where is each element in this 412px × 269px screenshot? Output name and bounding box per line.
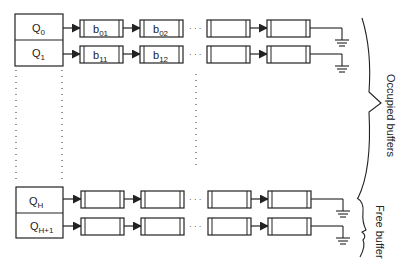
queue-table-bottom: QH QH+1 [16,187,63,238]
occupied-buffers-label: Occupied buffers [385,74,397,157]
ground-icon [311,199,350,217]
queue-buffer-diagram: Q0 Q1 QH QH+1 · · · b01 b02 · · · [0,0,412,269]
vertical-ellipsis [16,70,196,182]
free-brace [357,198,366,257]
free-buffer-label: Free buffer [374,205,386,259]
occupied-brace [358,18,381,198]
ellipsis: · · · [189,50,201,59]
ground-icon [310,28,349,46]
ellipsis: · · · [189,195,201,204]
ground-icon [310,54,349,72]
queue-table-top: Q0 Q1 [15,14,63,66]
buffer-chain-qh: · · · [63,191,350,217]
buffer-chain-q0: · · · b01 b02 [63,20,349,46]
buffer-chain-qh1: · · · [63,218,350,244]
ellipsis: · · · [189,24,201,33]
buffer-chain-q1: · · · b11 b12 [63,46,349,72]
ground-icon [311,226,350,244]
ellipsis: · · · [189,222,201,231]
